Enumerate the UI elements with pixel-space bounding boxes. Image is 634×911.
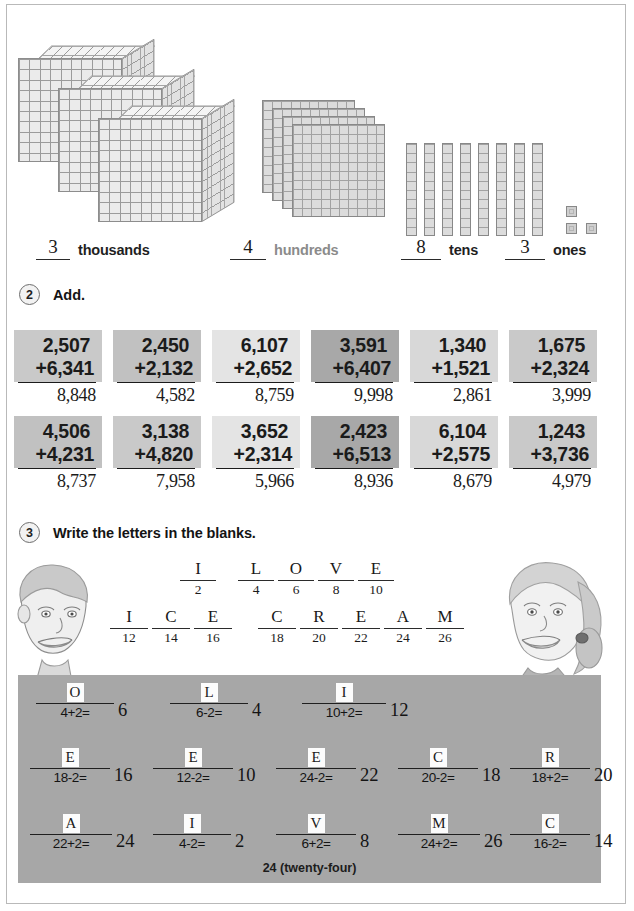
addition-row: 4,506 +4,231 8,737 3,138 +4,820 7,958 3,… <box>14 416 624 502</box>
answer-letter-line: A <box>30 814 112 835</box>
answer-letter-line: E <box>30 748 110 769</box>
answer-letter[interactable]: E <box>308 748 325 767</box>
second-addend: +2,575 <box>416 443 490 466</box>
ten-rod <box>460 143 471 236</box>
answer-letter[interactable]: O <box>67 683 84 702</box>
sum-answer[interactable]: 8,679 <box>414 468 492 492</box>
answer-result[interactable]: 24 <box>116 832 135 852</box>
answer-fraction: O 4+2= <box>36 683 114 720</box>
answer-letter[interactable]: C <box>430 748 447 767</box>
addition-problem: 3,591 +6,407 9,998 <box>311 330 399 406</box>
answer-result[interactable]: 16 <box>114 766 133 786</box>
code-number: 2 <box>180 582 216 598</box>
hundreds-blank[interactable]: 4 <box>230 236 266 260</box>
place-value-group-hundreds: 4 hundreds <box>230 236 338 260</box>
answer-letter[interactable]: V <box>308 814 325 833</box>
answer-fraction: A 22+2= <box>30 814 112 851</box>
code-blank[interactable]: O 6 <box>278 560 314 598</box>
sum-answer[interactable]: 4,979 <box>513 468 591 492</box>
answer-result[interactable]: 20 <box>594 766 613 786</box>
thousands-blank[interactable]: 3 <box>36 236 70 260</box>
answer-letter-line: C <box>398 748 478 769</box>
addition-problem: 2,423 +6,513 8,936 <box>311 416 399 492</box>
answer-result[interactable]: 26 <box>484 832 503 852</box>
tens-blank[interactable]: 8 <box>401 236 441 260</box>
code-number: 12 <box>110 630 148 646</box>
code-blank[interactable]: E 16 <box>194 608 232 646</box>
answer-equation: 10+2= <box>302 705 386 720</box>
code-number: 26 <box>426 630 464 646</box>
answer-equation: 6-2= <box>170 705 248 720</box>
sum-answer[interactable]: 3,999 <box>513 382 591 406</box>
answer-result[interactable]: 6 <box>118 701 127 721</box>
answer-result[interactable]: 14 <box>594 832 613 852</box>
sum-answer[interactable]: 2,861 <box>414 382 492 406</box>
answer-letter[interactable]: I <box>336 683 353 702</box>
section-number-badge: 2 <box>19 284 40 305</box>
answer-letter[interactable]: C <box>542 814 559 833</box>
answer-letter[interactable]: L <box>201 683 218 702</box>
base-ten-blocks-diagram <box>0 8 634 248</box>
sum-answer[interactable]: 8,759 <box>216 382 294 406</box>
answer-letter[interactable]: I <box>184 814 201 833</box>
answer-equation: 24+2= <box>398 836 480 851</box>
answer-letter[interactable]: E <box>62 748 79 767</box>
sum-answer[interactable]: 4,582 <box>117 382 195 406</box>
code-blank[interactable]: R 20 <box>300 608 338 646</box>
code-blank[interactable]: V 8 <box>318 560 354 598</box>
first-addend: 3,591 <box>317 334 391 357</box>
first-addend: 3,138 <box>119 420 193 443</box>
one-unit <box>566 206 577 217</box>
second-addend: +6,341 <box>20 357 94 380</box>
answer-letter-line: I <box>302 683 386 704</box>
answer-equation: 6+2= <box>276 836 356 851</box>
code-blank[interactable]: A 24 <box>384 608 422 646</box>
code-number: 22 <box>342 630 380 646</box>
code-blank[interactable]: I 12 <box>110 608 148 646</box>
answer-equation: 4+2= <box>36 705 114 720</box>
answer-equation: 20-2= <box>398 770 478 785</box>
section-header-3: 3 Write the letters in the blanks. <box>19 522 256 543</box>
second-addend: +3,736 <box>515 443 589 466</box>
sum-answer[interactable]: 5,966 <box>216 468 294 492</box>
answer-result[interactable]: 2 <box>235 832 244 852</box>
code-letter: V <box>318 560 354 579</box>
second-addend: +4,820 <box>119 443 193 466</box>
answer-letter[interactable]: R <box>542 748 559 767</box>
code-blank[interactable]: I 2 <box>180 560 216 598</box>
addend-box: 3,652 +2,314 <box>212 416 300 468</box>
answer-result[interactable]: 4 <box>252 701 261 721</box>
code-blank[interactable]: L 4 <box>238 560 274 598</box>
code-blank[interactable]: C 18 <box>258 608 296 646</box>
ones-blank[interactable]: 3 <box>505 236 545 260</box>
code-blank[interactable]: C 14 <box>152 608 190 646</box>
answer-result[interactable]: 18 <box>482 766 501 786</box>
tens-label: tens <box>449 242 478 260</box>
addition-problem-grid: 2,507 +6,341 8,848 2,450 +2,132 4,582 6,… <box>14 330 624 502</box>
answer-letter[interactable]: M <box>431 814 448 833</box>
sum-answer[interactable]: 8,737 <box>18 468 96 492</box>
answer-cell: I 10+2= 12 <box>302 683 409 720</box>
sum-answer[interactable]: 7,958 <box>117 468 195 492</box>
answer-letter[interactable]: A <box>63 814 80 833</box>
code-blank[interactable]: E 10 <box>358 560 394 598</box>
first-addend: 2,450 <box>119 334 193 357</box>
ten-rod <box>478 143 489 236</box>
answer-result[interactable]: 22 <box>360 766 379 786</box>
sum-answer[interactable]: 9,998 <box>315 382 393 406</box>
code-blank[interactable]: E 22 <box>342 608 380 646</box>
answer-letter[interactable]: E <box>185 748 202 767</box>
answer-result[interactable]: 10 <box>237 766 256 786</box>
answer-result[interactable]: 8 <box>360 832 369 852</box>
answer-cell: E 18-2= 16 <box>30 748 133 785</box>
answer-result[interactable]: 12 <box>390 701 409 721</box>
answer-fraction: I 10+2= <box>302 683 386 720</box>
answer-cell: V 6+2= 8 <box>276 814 369 851</box>
code-underline <box>318 579 354 581</box>
code-blank[interactable]: M 26 <box>426 608 464 646</box>
sum-answer[interactable]: 8,848 <box>18 382 96 406</box>
section-title: Add. <box>53 287 85 303</box>
code-number: 10 <box>358 582 394 598</box>
second-addend: +2,314 <box>218 443 292 466</box>
sum-answer[interactable]: 8,936 <box>315 468 393 492</box>
